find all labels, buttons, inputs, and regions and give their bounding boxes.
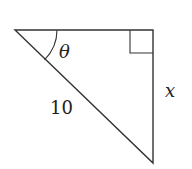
hypotenuse-label: 10: [50, 97, 73, 118]
side-label-x: x: [165, 80, 175, 101]
right-angle-marker: [130, 30, 153, 53]
angle-arc: [45, 30, 58, 60]
right-triangle: [15, 30, 153, 163]
angle-label-theta: θ: [59, 41, 70, 62]
triangle-diagram: θ 10 x: [0, 0, 192, 169]
